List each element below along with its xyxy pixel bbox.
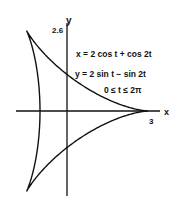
parameter-range: 0 ≤ t ≤ 2π	[104, 85, 142, 95]
x-axis-label: x	[164, 107, 169, 117]
equation-x: x = 2 cos t + cos 2t	[76, 49, 152, 59]
deltoid-figure: y 2.6 x 3 x = 2 cos t + cos 2t y = 2 sin…	[0, 0, 178, 209]
x-tick-label: 3	[149, 117, 154, 126]
y-tick-label: 2.6	[52, 26, 64, 35]
y-axis-label: y	[66, 15, 72, 26]
equation-y: y = 2 sin t − sin 2t	[75, 69, 146, 79]
